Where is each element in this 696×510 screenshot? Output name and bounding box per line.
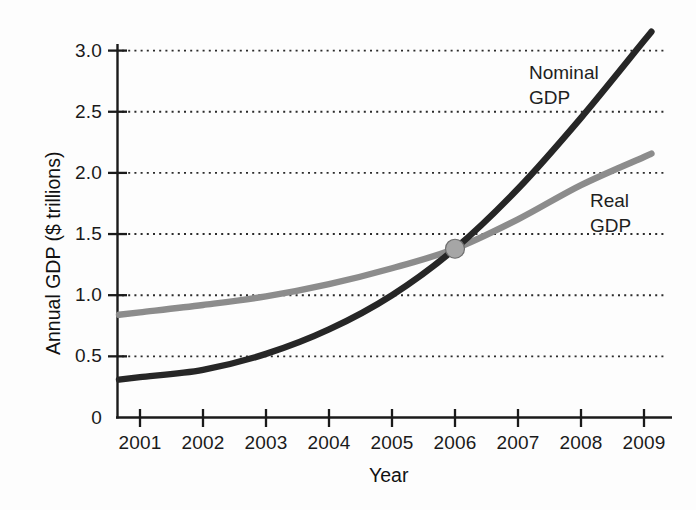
real-gdp-line xyxy=(119,154,651,315)
nominal-gdp-label-line1: Nominal xyxy=(529,60,599,85)
x-tick-label: 2008 xyxy=(551,432,611,454)
nominal-gdp-label: Nominal GDP xyxy=(529,60,599,110)
gdp-line-chart: 3.02.52.01.51.00.50 20012002200320042005… xyxy=(0,0,696,510)
nominal-gdp-label-line2: GDP xyxy=(529,85,599,110)
real-gdp-label-line1: Real xyxy=(590,188,631,213)
x-tick-label: 2009 xyxy=(614,432,674,454)
y-axis-title: Annual GDP ($ trillions) xyxy=(42,152,65,355)
y-tick-label: 2.5 xyxy=(50,101,102,123)
x-axis-title: Year xyxy=(369,464,408,487)
x-tick-label: 2005 xyxy=(362,432,422,454)
y-tick-label: 3.0 xyxy=(50,40,102,62)
annotations xyxy=(446,239,465,258)
x-tick-label: 2007 xyxy=(488,432,548,454)
real-gdp-label-line2: GDP xyxy=(590,213,631,238)
x-tick-label: 2003 xyxy=(236,432,296,454)
x-tick-label: 2001 xyxy=(110,432,170,454)
real-gdp-label: Real GDP xyxy=(590,188,631,238)
x-tick-label: 2002 xyxy=(173,432,233,454)
y-tick-label: 0 xyxy=(50,407,102,429)
intersection-marker-icon xyxy=(446,239,465,258)
x-tick-label: 2006 xyxy=(425,432,485,454)
x-tick-label: 2004 xyxy=(299,432,359,454)
